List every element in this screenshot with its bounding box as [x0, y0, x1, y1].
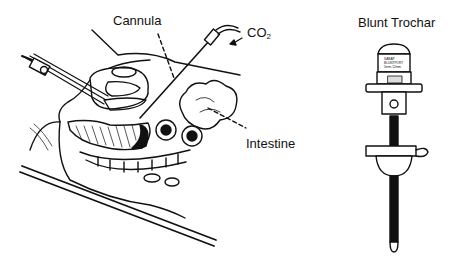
co2-label: CO2: [247, 26, 271, 41]
co2-main-text: CO: [247, 25, 267, 40]
cannula-label: Cannula: [113, 14, 161, 27]
trochar-illustration: [366, 44, 428, 252]
blunt-trochar-title: Blunt Trochar: [358, 16, 435, 29]
abdomen-illustration: [20, 25, 246, 246]
svg-text:5mm-12mm: 5mm-12mm: [384, 65, 401, 69]
intestine-label: Intestine: [246, 137, 295, 150]
laparoscopy-diagram: SABAP BLUNTPORT 5mm-12mm: [0, 0, 456, 272]
co2-subscript: 2: [267, 32, 271, 41]
